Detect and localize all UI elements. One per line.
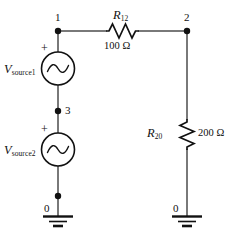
resistor-value-r20: 200 Ω [198, 128, 224, 139]
junction-dots [55, 28, 190, 199]
junction-dot-ground-left [55, 193, 61, 199]
junction-dot-node3 [55, 108, 61, 114]
circuit-diagram: 1 2 3 0 0 + + Vsource1 Vsource2 R12 100 … [0, 0, 235, 245]
source-label-vsource1-name: V [4, 62, 12, 76]
source-label-vsource1-subscript: source1 [12, 68, 36, 77]
resistor-label-r12-subscript: 12 [121, 14, 129, 23]
node-label-ground-right: 0 [173, 203, 179, 214]
polarity-plus-vsource2: + [41, 123, 48, 135]
resistor-zigzag-icon-r20 [180, 119, 194, 150]
junction-dot-node2 [184, 28, 190, 34]
resistor-label-r20: R20 [147, 127, 162, 140]
source-label-vsource2-subscript: source2 [12, 149, 36, 158]
node-label-2: 2 [184, 12, 190, 23]
resistor-value-r12: 100 Ω [104, 41, 130, 52]
source-label-vsource2: Vsource2 [4, 144, 36, 157]
resistor-label-r20-subscript: 20 [155, 132, 163, 141]
node-label-ground-left: 0 [44, 203, 50, 214]
source-label-vsource1: Vsource1 [4, 63, 36, 76]
ac-sine-source-icon-vsource2 [42, 133, 75, 166]
ground-symbol-left-icon [43, 217, 73, 227]
ac-sine-source-icon-vsource1 [42, 52, 75, 85]
resistor-label-r20-name: R [147, 126, 155, 140]
source-label-vsource2-name: V [4, 143, 12, 157]
node-label-1: 1 [55, 12, 61, 23]
polarity-plus-vsource1: + [41, 42, 48, 54]
resistor-label-r12-name: R [113, 8, 121, 22]
resistor-label-r12: R12 [113, 9, 128, 22]
node-label-3: 3 [65, 105, 71, 116]
circuit-schematic-canvas [0, 0, 235, 245]
ground-symbol-right-icon [172, 217, 202, 227]
junction-dot-node1 [55, 28, 61, 34]
resistor-zigzag-icon-r12 [106, 24, 139, 38]
